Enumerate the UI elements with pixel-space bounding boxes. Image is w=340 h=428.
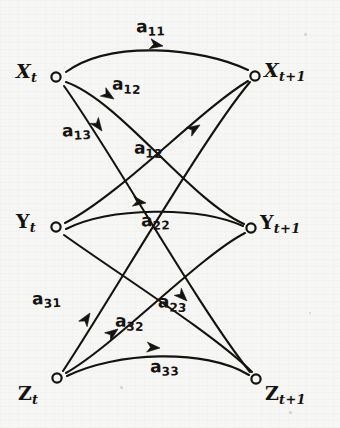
arrowhead-e-a13 — [90, 118, 106, 134]
edge-e-a11 — [66, 50, 248, 72]
node-variable-symbol: X — [264, 59, 279, 81]
coefficient-subscript: 13 — [73, 128, 91, 143]
edge-label-e-a12-lower: a12 — [134, 138, 164, 161]
node-label-x_t: Xt — [16, 60, 37, 85]
node-label-y_t: Yt — [16, 210, 36, 235]
node-label-x_t1: Xt+1 — [264, 59, 306, 84]
edge-label-e-a11: a11 — [136, 16, 166, 39]
paper-speck-3 — [309, 312, 311, 314]
coefficient-symbol: a — [141, 210, 153, 230]
node-variable-symbol: Y — [16, 210, 30, 232]
coefficient-subscript: 11 — [147, 24, 165, 38]
coefficient-subscript: 32 — [126, 320, 144, 334]
arrowhead-e-a33 — [147, 342, 161, 353]
node-time-subscript: t — [32, 392, 38, 407]
coefficient-symbol: a — [136, 16, 148, 36]
edge-label-e-a31: a31 — [31, 287, 61, 311]
node-z_t1[interactable] — [251, 374, 260, 383]
paper-speck-1 — [120, 386, 123, 389]
node-time-subscript: t+1 — [279, 392, 306, 407]
edge-label-e-a23: a23 — [158, 291, 188, 315]
coefficient-subscript: 23 — [169, 300, 187, 315]
node-label-z_t1: Zt+1 — [265, 382, 306, 407]
node-variable-symbol: Y — [260, 211, 274, 233]
arrowhead-e-a22 — [132, 196, 146, 208]
node-variable-symbol: Z — [265, 382, 279, 404]
coefficient-subscript: 12 — [145, 147, 163, 161]
node-variable-symbol: X — [16, 60, 31, 82]
node-y_t[interactable] — [51, 222, 60, 231]
node-x_t1[interactable] — [250, 71, 259, 80]
edge-label-e-a32: a32 — [115, 311, 145, 334]
coefficient-subscript: 12 — [123, 83, 141, 97]
paper-speck-0 — [304, 33, 307, 36]
node-label-z_t: Zt — [18, 382, 38, 407]
node-variable-symbol: Z — [18, 382, 32, 404]
node-y_t1[interactable] — [246, 223, 255, 232]
paper-speck-2 — [289, 411, 292, 414]
arrowhead-e-a11 — [149, 39, 164, 51]
edge-label-e-a33: a33 — [150, 356, 180, 379]
diagram-canvas: a11a12a13a12a22a23a31a32a33 XtXt+1YtYt+1… — [0, 0, 340, 428]
coefficient-subscript: 22 — [152, 218, 170, 232]
coefficient-subscript: 31 — [43, 296, 61, 311]
coefficient-symbol: a — [150, 356, 162, 376]
node-time-subscript: t+1 — [274, 221, 301, 236]
edge-label-e-a22: a22 — [141, 210, 171, 233]
node-z_t[interactable] — [52, 373, 61, 382]
node-time-subscript: t — [30, 220, 36, 235]
node-x_t[interactable] — [51, 72, 60, 81]
coefficient-subscript: 33 — [161, 364, 179, 378]
node-time-subscript: t+1 — [279, 69, 306, 84]
edge-label-e-a13: a13 — [61, 119, 91, 143]
edge-label-e-a12-upper: a12 — [112, 74, 142, 97]
node-label-y_t1: Yt+1 — [260, 211, 301, 236]
node-time-subscript: t — [31, 70, 37, 85]
